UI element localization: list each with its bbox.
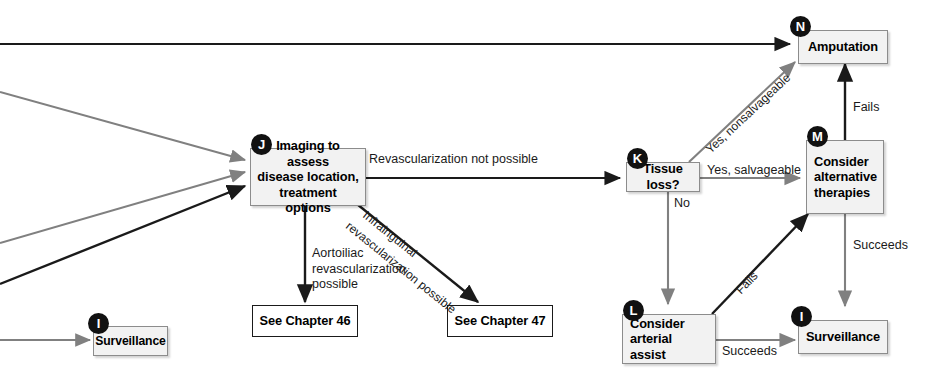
badge-L: L bbox=[623, 300, 644, 321]
node-see-chapter-46[interactable]: See Chapter 46 bbox=[252, 305, 358, 337]
node-imaging-to-assess[interactable]: Imaging to assess disease location, trea… bbox=[250, 148, 366, 206]
node-imaging-line-2: disease location, bbox=[257, 169, 359, 185]
node-alt-therapies-line-2: alternative bbox=[814, 169, 876, 185]
edge-label-yes-salvageable: Yes, salvageable bbox=[707, 163, 801, 179]
edge-offscreen-to-imaging-1 bbox=[0, 92, 245, 160]
badge-K: K bbox=[627, 148, 648, 169]
node-consider-arterial-assist[interactable]: Consider arterial assist bbox=[622, 314, 716, 364]
edge-arterial-assist-to-alternative-therapies bbox=[712, 214, 808, 314]
node-arterial-assist-line-1: Consider bbox=[630, 316, 708, 332]
node-consider-alternative-therapies[interactable]: Consider alternative therapies bbox=[806, 140, 884, 214]
edge-offscreen-to-imaging-3 bbox=[0, 186, 245, 284]
badge-I-left: I bbox=[88, 313, 109, 334]
node-see-chapter-47[interactable]: See Chapter 47 bbox=[447, 305, 553, 337]
node-chapter47-line-1: See Chapter 47 bbox=[454, 313, 545, 329]
node-imaging-line-1: Imaging to assess bbox=[257, 138, 359, 169]
badge-N: N bbox=[790, 16, 811, 37]
edge-label-succeeds-alt-therapies-to-surveillance: Succeeds bbox=[853, 238, 908, 254]
node-surveillance-left-line-1: Surveillance bbox=[95, 334, 166, 349]
node-amputation[interactable]: Amputation bbox=[798, 30, 888, 64]
edge-label-no: No bbox=[674, 196, 690, 212]
badge-I-right: I bbox=[791, 306, 812, 327]
node-surveillance-right[interactable]: Surveillance bbox=[798, 320, 888, 354]
node-alt-therapies-line-3: therapies bbox=[814, 185, 876, 201]
node-arterial-assist-line-2: arterial assist bbox=[630, 331, 708, 362]
node-surveillance-right-line-1: Surveillance bbox=[806, 329, 880, 345]
node-alt-therapies-line-1: Consider bbox=[814, 154, 876, 170]
edge-label-yes-nonsalvageable: Yes, nonsalvageable bbox=[703, 71, 794, 157]
badge-J: J bbox=[251, 134, 272, 155]
edge-offscreen-to-imaging-2 bbox=[0, 172, 245, 243]
node-amputation-line-1: Amputation bbox=[808, 39, 878, 55]
edge-label-revascularization-not-possible: Revascularization not possible bbox=[369, 152, 538, 168]
node-chapter46-line-1: See Chapter 46 bbox=[259, 313, 350, 329]
edge-label-succeeds-arterial-assist-to-surveillance: Succeeds bbox=[722, 344, 777, 360]
edge-label-fails-alt-therapies-to-amputation: Fails bbox=[853, 100, 879, 116]
flowchart-canvas: Imaging to assess disease location, trea… bbox=[0, 0, 938, 384]
badge-M: M bbox=[807, 126, 828, 147]
edge-label-fails-arterial-assist-to-alt-therapies: Fails bbox=[733, 269, 761, 298]
node-imaging-line-3: treatment options bbox=[257, 185, 359, 216]
